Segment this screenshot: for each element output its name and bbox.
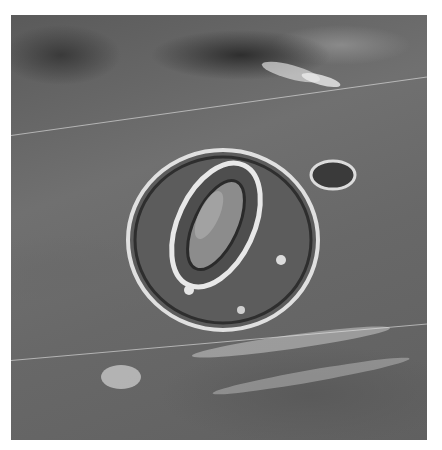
adjacent-cell xyxy=(311,161,355,189)
stoma-structure xyxy=(11,15,427,440)
micrograph-image xyxy=(11,15,427,440)
